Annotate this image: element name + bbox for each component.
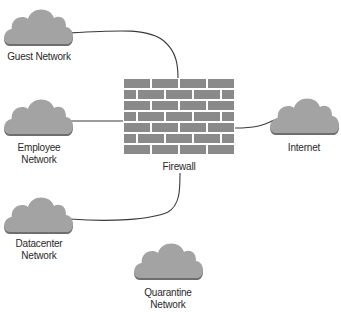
employee-network-label: Employee Network xyxy=(18,142,61,166)
edge-guest-firewall xyxy=(68,31,178,78)
firewall-label: Firewall xyxy=(163,161,196,173)
quarantine-network-cloud-icon xyxy=(134,243,203,280)
internet-label: Internet xyxy=(288,142,320,154)
internet-cloud-icon xyxy=(270,98,339,135)
firewall-icon xyxy=(123,78,235,158)
employee-network-cloud-icon xyxy=(4,99,73,136)
datacenter-network-label: Datacenter Network xyxy=(16,238,63,262)
edge-datacenter-firewall xyxy=(70,173,180,220)
datacenter-network-cloud-icon xyxy=(4,197,73,234)
edge-firewall-internet xyxy=(235,120,274,128)
guest-network-label: Guest Network xyxy=(7,51,71,63)
quarantine-network-label: Quarantine Network xyxy=(144,287,191,311)
guest-network-cloud-icon xyxy=(4,9,73,46)
